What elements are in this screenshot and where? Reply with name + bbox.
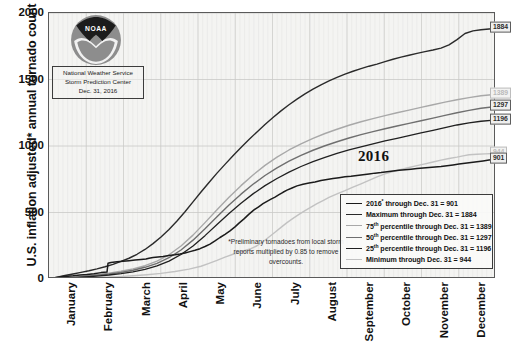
y-tick-0: 0 <box>10 272 44 284</box>
x-tick-october: October <box>400 282 412 326</box>
x-tick-january: January <box>65 282 77 326</box>
x-tick-november: November <box>438 282 450 338</box>
legend-swatch-2 <box>346 225 362 226</box>
legend-item-5: Minimum through Dec. 31 = 944 <box>344 254 489 265</box>
noaa-caption-line3: Dec. 31, 2016 <box>54 87 142 96</box>
x-tick-february: February <box>102 282 114 331</box>
footnote-annotation: *Preliminary tornadoes from local storm … <box>227 237 345 267</box>
y-tick-1000: 1000 <box>10 139 44 151</box>
legend-label-3: 50th percentile through Dec. 31 = 1297 <box>366 232 492 242</box>
chart-legend: 2016* through Dec. 31 = 901Maximum throu… <box>340 194 493 269</box>
x-tick-august: August <box>326 282 338 322</box>
legend-item-0: 2016* through Dec. 31 = 901 <box>344 198 489 209</box>
y-tick-500: 500 <box>10 206 44 218</box>
legend-swatch-3 <box>346 237 362 238</box>
legend-item-3: 50th percentile through Dec. 31 = 1297 <box>344 232 489 243</box>
legend-label-1: Maximum through Dec. 31 = 1884 <box>366 211 477 219</box>
noaa-logo-icon: NOAA <box>70 14 122 66</box>
legend-swatch-1 <box>346 214 362 215</box>
legend-swatch-5 <box>346 259 362 260</box>
legend-swatch-0 <box>346 203 362 204</box>
callout-2016: 901 <box>490 153 507 164</box>
x-tick-april: April <box>177 282 189 308</box>
legend-item-4: 25th percentile through Dec. 31 = 1196 <box>344 243 489 254</box>
series-label-2016: 2016 <box>358 148 389 165</box>
x-tick-july: July <box>289 282 301 305</box>
svg-text:NOAA: NOAA <box>85 25 107 32</box>
chart-screenshot: U.S. inflation adjusted* annual tornado … <box>0 0 523 351</box>
x-tick-september: September <box>363 282 375 341</box>
noaa-caption-line1: National Weather Service <box>54 69 142 78</box>
noaa-caption-line2: Storm Prediction Center <box>54 78 142 87</box>
callout-maximum: 1884 <box>490 22 511 33</box>
x-tick-december: December <box>475 282 487 338</box>
legend-item-2: 75th percentile through Dec. 31 = 1389 <box>344 220 489 231</box>
y-tick-2000: 2000 <box>10 6 44 18</box>
x-tick-march: March <box>140 282 152 316</box>
callout-25th: 1196 <box>490 114 511 125</box>
y-tick-1500: 1500 <box>10 73 44 85</box>
x-axis-tick-labels: JanuaryFebruaryMarchAprilMayJuneJulyAugu… <box>48 278 495 351</box>
legend-label-2: 75th percentile through Dec. 31 = 1389 <box>366 221 492 231</box>
y-axis-tick-labels: 0500100015002000 <box>8 0 44 351</box>
legend-swatch-4 <box>346 248 362 249</box>
noaa-caption: National Weather Service Storm Predictio… <box>52 66 144 99</box>
callout-50th: 1297 <box>490 100 511 111</box>
legend-label-4: 25th percentile through Dec. 31 = 1196 <box>366 243 491 253</box>
legend-label-5: Minimum through Dec. 31 = 944 <box>366 256 471 264</box>
x-tick-may: May <box>214 282 226 304</box>
callout-75th: 1389 <box>490 88 511 99</box>
legend-label-0: 2016* through Dec. 31 = 901 <box>366 198 458 208</box>
x-tick-june: June <box>251 282 263 309</box>
legend-item-1: Maximum through Dec. 31 = 1884 <box>344 209 489 220</box>
